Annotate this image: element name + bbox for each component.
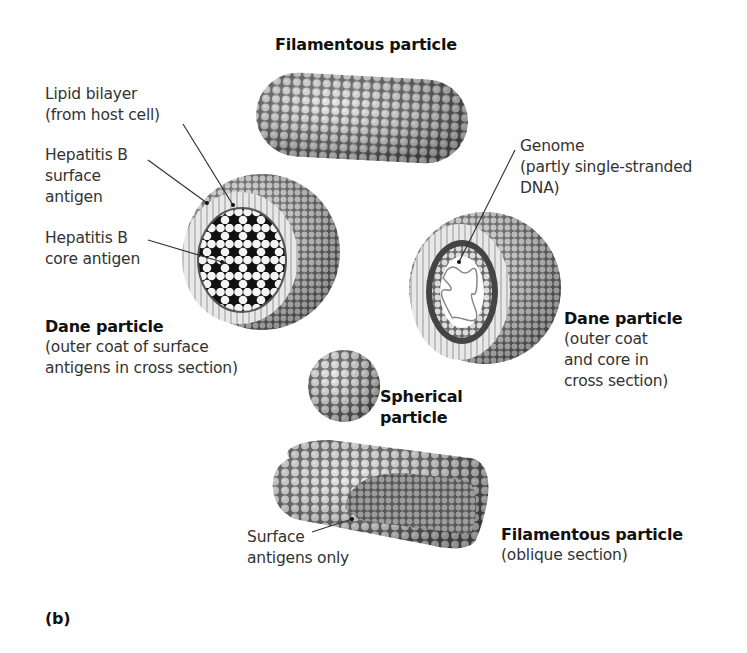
- leader-lipid-bilayer: [183, 124, 233, 205]
- genome-label: Genome (partly single-stranded DNA): [520, 136, 692, 199]
- hepatitis-b-particles-figure: Filamentous particle Lipid bilayer (from…: [0, 0, 747, 653]
- lipid-bilayer-label: Lipid bilayer (from host cell): [45, 84, 160, 126]
- dane-particle-left-label: Dane particle (outer coat of surface ant…: [45, 316, 238, 379]
- dane-particle-left-illustration: [182, 174, 340, 330]
- filamentous-particle-top-illustration: [254, 71, 470, 166]
- surface-antigen-label: Hepatitis B surface antigen: [45, 145, 128, 208]
- panel-label: (b): [45, 608, 70, 629]
- leader-surface-antigen: [148, 160, 207, 203]
- spherical-particle-illustration: [308, 350, 380, 422]
- core-antigen-label: Hepatitis B core antigen: [45, 228, 140, 270]
- dane-particle-right-illustration: [409, 212, 561, 364]
- surface-antigens-only-label: Surface antigens only: [247, 527, 349, 569]
- filamentous-particle-bottom-label: Filamentous particle (oblique section): [501, 524, 683, 566]
- filamentous-particle-top-title: Filamentous particle: [275, 34, 457, 55]
- spherical-particle-label: Spherical particle: [380, 386, 463, 428]
- dane-particle-right-label: Dane particle (outer coat and core in cr…: [564, 308, 682, 392]
